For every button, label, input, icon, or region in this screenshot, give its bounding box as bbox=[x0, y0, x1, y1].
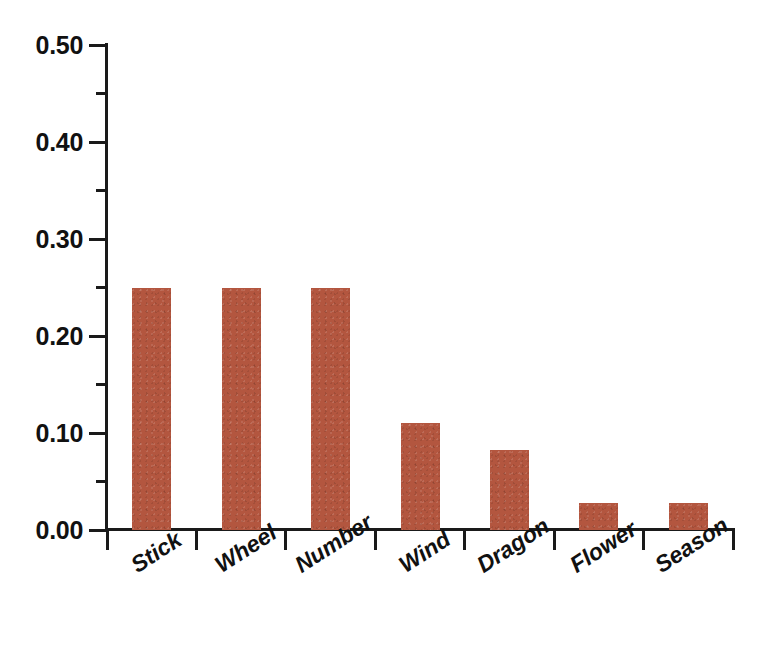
y-axis-tick-label: 0.50 bbox=[36, 31, 83, 60]
y-axis-minor-tick bbox=[96, 480, 107, 483]
y-axis-tick-label: 0.30 bbox=[36, 225, 83, 254]
y-axis-major-tick bbox=[89, 335, 107, 338]
bar bbox=[222, 288, 261, 531]
y-axis-tick-label: 0.10 bbox=[36, 419, 83, 448]
bar bbox=[311, 288, 350, 531]
y-axis-minor-tick bbox=[96, 92, 107, 95]
y-axis-tick-label: 0.20 bbox=[36, 322, 83, 351]
y-axis-major-tick bbox=[89, 529, 107, 532]
x-axis-tick bbox=[463, 530, 466, 550]
bar bbox=[401, 423, 440, 530]
x-axis-tick bbox=[106, 530, 109, 550]
x-axis-tick bbox=[284, 530, 287, 550]
y-axis-major-tick bbox=[89, 432, 107, 435]
y-axis-tick-label: 0.40 bbox=[36, 128, 83, 157]
bar bbox=[490, 450, 529, 531]
x-axis-tick bbox=[195, 530, 198, 550]
y-axis-minor-tick bbox=[96, 383, 107, 386]
y-axis-major-tick bbox=[89, 44, 107, 47]
bar bbox=[132, 288, 171, 531]
x-axis-category-label: Stick bbox=[126, 526, 187, 579]
y-axis-major-tick bbox=[89, 141, 107, 144]
bar-chart: 0.000.100.200.300.400.50 StickWheelNumbe… bbox=[0, 0, 771, 648]
y-axis-minor-tick bbox=[96, 189, 107, 192]
y-axis-major-tick bbox=[89, 238, 107, 241]
y-axis-tick-label: 0.00 bbox=[36, 516, 83, 545]
y-axis-minor-tick bbox=[96, 286, 107, 289]
x-axis-tick bbox=[642, 530, 645, 550]
x-axis-category-label: Wind bbox=[394, 526, 456, 579]
plot-area: 0.000.100.200.300.400.50 bbox=[107, 45, 733, 530]
